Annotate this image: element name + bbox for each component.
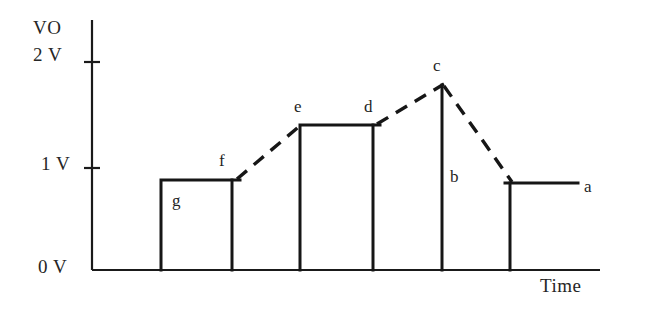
y-axis-title: VO bbox=[33, 18, 61, 37]
segment-label-b: b bbox=[450, 168, 459, 185]
ramp-c-up bbox=[377, 84, 444, 124]
segment-label-a: a bbox=[584, 178, 592, 195]
y-tick-label-0v: 0 V bbox=[38, 257, 67, 276]
ramp-f bbox=[237, 124, 302, 179]
waveform-plot bbox=[0, 0, 647, 315]
segment-label-g: g bbox=[172, 192, 181, 209]
y-tick-label-2v: 2 V bbox=[33, 45, 62, 64]
x-axis-label: Time bbox=[540, 276, 581, 295]
segment-label-c: c bbox=[433, 57, 441, 74]
segment-label-f: f bbox=[219, 152, 225, 169]
segment-label-e: e bbox=[294, 98, 302, 115]
segment-e-d-block bbox=[300, 125, 380, 270]
segment-label-d: d bbox=[364, 98, 373, 115]
waveform-figure: VO 2 V 1 V 0 V Time a b c d e f g bbox=[0, 0, 647, 315]
y-tick-label-1v: 1 V bbox=[41, 154, 70, 173]
